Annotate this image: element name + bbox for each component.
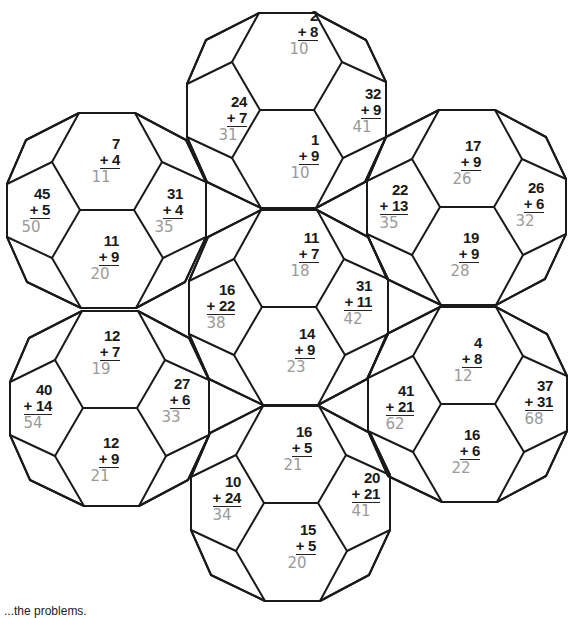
addend-bottom: + 22	[207, 298, 235, 315]
written-answer[interactable]: 28	[419, 263, 479, 280]
addition-problem-7: 31 + 4 35	[123, 186, 183, 236]
addend-top: 16	[420, 427, 480, 442]
addend-top: 4	[422, 335, 482, 350]
addition-problem-25: 16 + 5 21	[252, 424, 312, 474]
addend-top: 12	[59, 435, 119, 450]
written-answer[interactable]: 35	[123, 219, 183, 236]
addend-bottom: + 6	[460, 443, 480, 460]
addend-top: 19	[419, 230, 479, 245]
addition-problem-6: 45 + 5 50	[0, 186, 50, 236]
addend-bottom: + 6	[524, 196, 544, 213]
written-answer[interactable]: 10	[258, 41, 318, 58]
addition-problem-23: 37 + 31 68	[493, 378, 553, 428]
addition-problem-12: 19 + 9 28	[419, 230, 479, 280]
addend-top: 32	[321, 86, 381, 101]
addend-bottom: + 14	[24, 398, 52, 415]
addend-bottom: + 8	[462, 351, 482, 368]
addend-bottom: + 8	[298, 24, 318, 41]
addition-problem-5: 7 + 4 11	[60, 136, 120, 186]
written-answer[interactable]: 18	[259, 263, 319, 280]
addend-bottom: + 4	[100, 152, 120, 169]
addition-problem-16: 14 + 9 23	[255, 326, 315, 376]
written-answer[interactable]: 19	[60, 361, 120, 378]
written-answer[interactable]: 22	[420, 460, 480, 477]
written-answer[interactable]: 54	[0, 415, 52, 432]
addend-bottom: + 9	[99, 249, 119, 266]
addend-bottom: + 5	[296, 538, 316, 555]
addend-bottom: + 21	[386, 399, 414, 416]
addition-problem-27: 20 + 21 41	[320, 470, 380, 520]
written-answer[interactable]: 33	[130, 409, 190, 426]
addend-top: 17	[421, 138, 481, 153]
addend-top: 22	[348, 182, 408, 197]
written-answer[interactable]: 31	[187, 127, 247, 144]
addend-top: 27	[130, 376, 190, 391]
addend-top: 41	[354, 383, 414, 398]
addition-problem-3: 32 + 9 41	[321, 86, 381, 136]
addend-bottom: + 6	[170, 392, 190, 409]
addend-top: 7	[60, 136, 120, 151]
written-answer[interactable]: 21	[59, 468, 119, 485]
written-answer[interactable]: 50	[0, 219, 50, 236]
addend-top: 2	[258, 8, 318, 23]
written-answer[interactable]: 23	[255, 359, 315, 376]
addend-top: 11	[59, 233, 119, 248]
addition-problem-14: 16 + 22 38	[175, 282, 235, 332]
written-answer[interactable]: 12	[422, 368, 482, 385]
addition-problem-15: 31 + 11 42	[312, 278, 372, 328]
addend-bottom: + 4	[163, 202, 183, 219]
addend-bottom: + 24	[213, 490, 241, 507]
addend-top: 45	[0, 186, 50, 201]
addition-problem-4: 1 + 9 10	[259, 132, 319, 182]
addend-top: 20	[320, 470, 380, 485]
written-answer[interactable]: 42	[312, 311, 372, 328]
written-answer[interactable]: 26	[421, 171, 481, 188]
written-answer[interactable]: 20	[256, 555, 316, 572]
addition-problem-28: 15 + 5 20	[256, 522, 316, 572]
written-answer[interactable]: 21	[252, 457, 312, 474]
written-answer[interactable]: 38	[175, 315, 235, 332]
addend-bottom: + 9	[99, 451, 119, 468]
addition-problem-20: 12 + 9 21	[59, 435, 119, 485]
written-answer[interactable]: 34	[181, 507, 241, 524]
addend-top: 1	[259, 132, 319, 147]
addition-problem-18: 40 + 14 54	[0, 382, 52, 432]
addend-bottom: + 7	[227, 110, 247, 127]
addend-top: 24	[187, 94, 247, 109]
addend-bottom: + 9	[459, 246, 479, 263]
written-answer[interactable]: 11	[60, 169, 120, 186]
addition-problem-9: 17 + 9 26	[421, 138, 481, 188]
addend-bottom: + 9	[295, 342, 315, 359]
footer-instructions: ...the problems.	[4, 604, 87, 618]
written-answer[interactable]: 41	[320, 503, 380, 520]
addend-top: 40	[0, 382, 52, 397]
addend-top: 26	[484, 180, 544, 195]
addition-problem-24: 16 + 6 22	[420, 427, 480, 477]
addition-problem-22: 41 + 21 62	[354, 383, 414, 433]
addend-bottom: + 9	[299, 148, 319, 165]
addend-bottom: + 31	[525, 394, 553, 411]
written-answer[interactable]: 35	[348, 215, 408, 232]
written-answer[interactable]: 32	[484, 213, 544, 230]
addend-top: 16	[175, 282, 235, 297]
addend-bottom: + 11	[344, 294, 372, 311]
written-answer[interactable]: 10	[259, 165, 319, 182]
written-answer[interactable]: 20	[59, 266, 119, 283]
addend-top: 31	[123, 186, 183, 201]
addend-top: 15	[256, 522, 316, 537]
written-answer[interactable]: 68	[493, 411, 553, 428]
addend-bottom: + 7	[299, 246, 319, 263]
addend-bottom: + 13	[380, 198, 408, 215]
addition-problem-19: 27 + 6 33	[130, 376, 190, 426]
addend-top: 11	[259, 230, 319, 245]
addend-top: 31	[312, 278, 372, 293]
addition-problem-13: 11 + 7 18	[259, 230, 319, 280]
written-answer[interactable]: 41	[321, 119, 381, 136]
written-answer[interactable]: 62	[354, 416, 414, 433]
addend-bottom: + 5	[30, 202, 50, 219]
addition-problem-11: 26 + 6 32	[484, 180, 544, 230]
addend-bottom: + 21	[352, 486, 380, 503]
addition-problem-8: 11 + 9 20	[59, 233, 119, 283]
addend-top: 10	[181, 474, 241, 489]
